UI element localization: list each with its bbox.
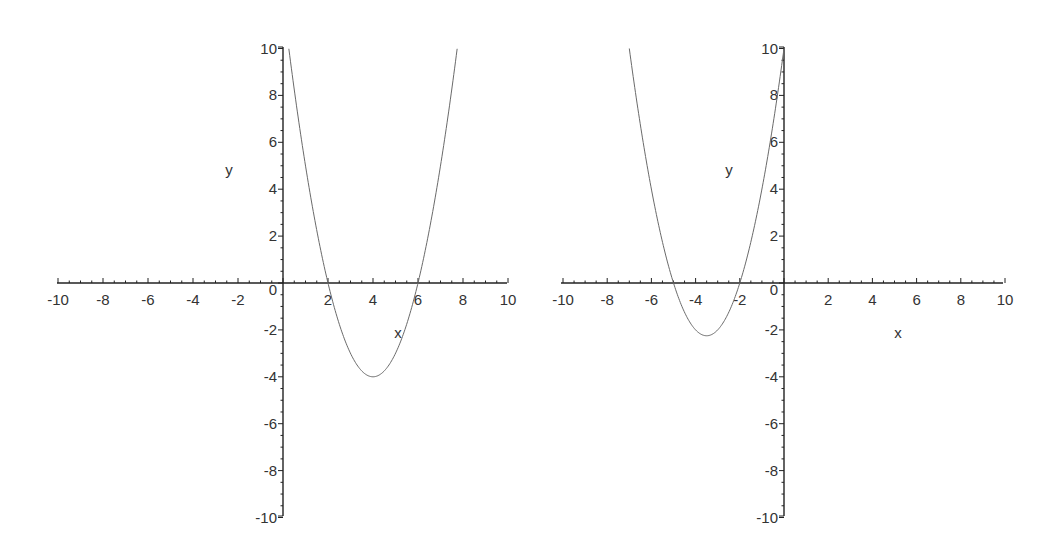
y-tick-label: -4 xyxy=(765,368,778,385)
y-tick-label: -6 xyxy=(765,415,778,432)
x-tick-label: -8 xyxy=(601,291,614,308)
y-tick-label: 10 xyxy=(260,40,277,57)
y-tick-label: 4 xyxy=(269,180,277,197)
y-tick-label: 6 xyxy=(269,133,277,150)
y-tick-label: -8 xyxy=(765,462,778,479)
y-tick-label: -4 xyxy=(264,368,277,385)
y-tick-label: -2 xyxy=(264,321,277,338)
x-tick-label: -2 xyxy=(733,291,746,308)
y-tick-label: -8 xyxy=(264,462,277,479)
plot-right: -10-8-6-4-22468101086420-2-4-6-8-10xy xyxy=(552,40,1013,526)
x-tick-label: 10 xyxy=(500,291,517,308)
x-tick-label: -8 xyxy=(96,291,109,308)
x-tick-label: -10 xyxy=(552,291,574,308)
y-tick-label: -10 xyxy=(255,509,277,526)
x-axis-title: x xyxy=(394,324,402,341)
plots-canvas: -10-8-6-4-22468101086420-2-4-6-8-10xy -1… xyxy=(0,0,1063,554)
x-tick-label: -10 xyxy=(47,291,69,308)
x-tick-label: 2 xyxy=(824,291,832,308)
y-axis-title: y xyxy=(725,161,733,178)
y-tick-label: -10 xyxy=(756,509,778,526)
y-axis-title: y xyxy=(225,161,233,178)
origin-label: 0 xyxy=(770,281,778,298)
y-tick-label: 2 xyxy=(269,227,277,244)
y-tick-label: -2 xyxy=(765,321,778,338)
x-tick-label: -6 xyxy=(645,291,658,308)
x-tick-label: -6 xyxy=(141,291,154,308)
x-tick-label: 6 xyxy=(912,291,920,308)
parabola-curve xyxy=(289,49,457,377)
x-tick-label: 8 xyxy=(957,291,965,308)
y-tick-label: -6 xyxy=(264,415,277,432)
y-tick-label: 4 xyxy=(770,180,778,197)
y-tick-label: 10 xyxy=(761,40,778,57)
x-tick-label: -4 xyxy=(689,291,702,308)
x-tick-label: -2 xyxy=(231,291,244,308)
x-tick-label: -4 xyxy=(186,291,199,308)
y-tick-label: 8 xyxy=(269,86,277,103)
x-tick-label: 4 xyxy=(868,291,876,308)
x-tick-label: 10 xyxy=(997,291,1014,308)
y-tick-label: 2 xyxy=(770,227,778,244)
x-tick-label: 4 xyxy=(369,291,377,308)
x-tick-label: 8 xyxy=(459,291,467,308)
plot-left: -10-8-6-4-22468101086420-2-4-6-8-10xy xyxy=(47,40,516,526)
x-axis-title: x xyxy=(894,324,902,341)
origin-label: 0 xyxy=(269,281,277,298)
